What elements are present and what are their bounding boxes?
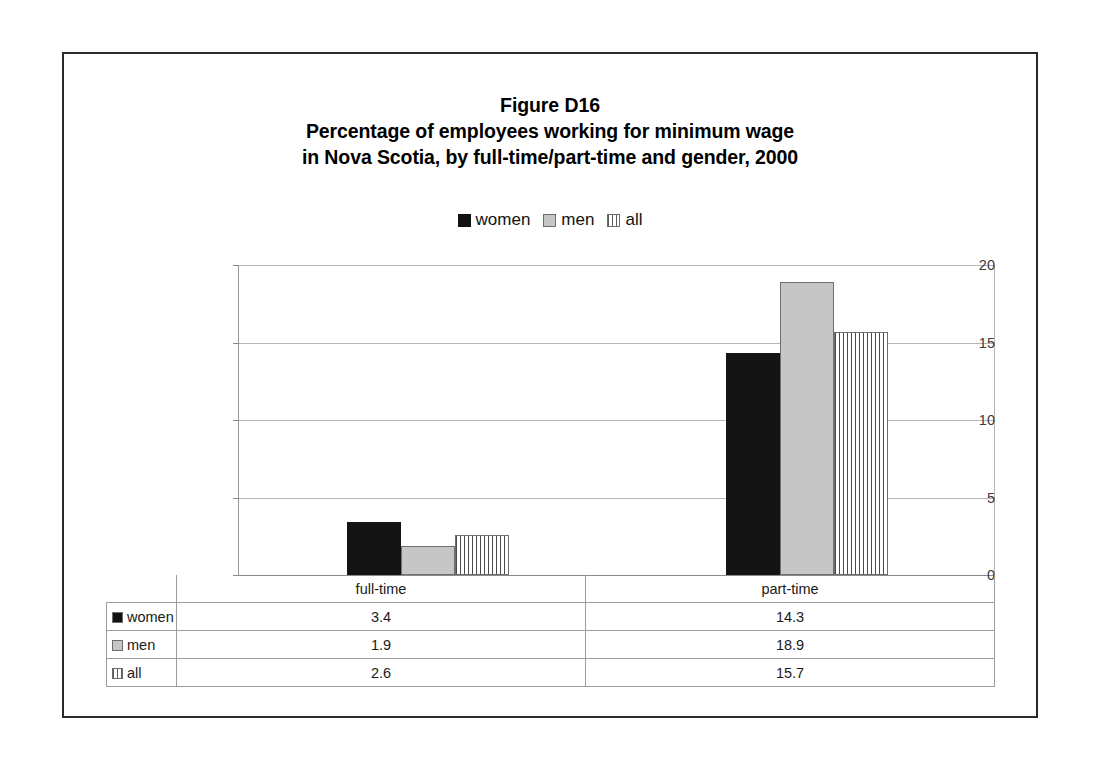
y-tick-5 <box>233 498 239 499</box>
chart-legend: women men all <box>64 211 1036 229</box>
category-label-full-time: full-time <box>177 575 586 603</box>
plot-area <box>238 265 995 575</box>
legend-label-women: women <box>476 211 531 229</box>
legend-item-women: women <box>458 211 531 229</box>
title-line-3: in Nova Scotia, by full-time/part-time a… <box>64 144 1036 170</box>
vertical-hatch-swatch-icon <box>607 214 620 227</box>
table-cell-all-part-time: 15.7 <box>586 659 995 687</box>
y-tick-label-20: 20 <box>947 257 995 273</box>
table-cell-women-full-time: 3.4 <box>177 603 586 631</box>
gridline-20 <box>239 265 995 266</box>
solid-gray-swatch-icon <box>543 214 556 227</box>
y-tick-15 <box>233 343 239 344</box>
series-label-text: all <box>127 665 142 681</box>
table-corner-cell <box>107 575 177 603</box>
table-cell-all-full-time: 2.6 <box>177 659 586 687</box>
bar-women-part-time <box>726 353 780 575</box>
bar-men-full-time <box>401 546 455 575</box>
bar-men-part-time <box>780 282 834 575</box>
figure-frame: Figure D16 Percentage of employees worki… <box>62 52 1038 718</box>
title-line-1: Figure D16 <box>64 92 1036 118</box>
series-label-text: women <box>127 609 174 625</box>
legend-label-all: all <box>625 211 642 229</box>
bar-all-full-time <box>455 535 509 575</box>
solid-black-swatch-icon <box>458 214 471 227</box>
y-tick-10 <box>233 420 239 421</box>
legend-label-men: men <box>561 211 594 229</box>
table-category-row: full-time part-time <box>107 575 995 603</box>
series-label-text: men <box>127 637 155 653</box>
plot-wrapper: 05101520 <box>176 265 995 575</box>
solid-black-swatch-icon <box>112 612 123 623</box>
table-row: men 1.9 18.9 <box>107 631 995 659</box>
vertical-hatch-swatch-icon <box>112 668 123 679</box>
y-tick-20 <box>233 265 239 266</box>
table-row: women 3.4 14.3 <box>107 603 995 631</box>
data-table: full-time part-time women 3.4 14.3 men 1… <box>106 575 995 687</box>
table-series-label-women: women <box>107 603 177 631</box>
table-cell-women-part-time: 14.3 <box>586 603 995 631</box>
figure-page: Figure D16 Percentage of employees worki… <box>0 0 1098 761</box>
solid-gray-swatch-icon <box>112 640 123 651</box>
bar-women-full-time <box>347 522 401 575</box>
table-series-label-all: all <box>107 659 177 687</box>
y-tick-label-15: 15 <box>947 335 995 351</box>
table-cell-men-part-time: 18.9 <box>586 631 995 659</box>
figure-title-block: Figure D16 Percentage of employees worki… <box>64 92 1036 170</box>
legend-item-men: men <box>543 211 594 229</box>
legend-item-all: all <box>607 211 642 229</box>
y-tick-label-10: 10 <box>947 412 995 428</box>
table-series-label-men: men <box>107 631 177 659</box>
table-cell-men-full-time: 1.9 <box>177 631 586 659</box>
title-line-2: Percentage of employees working for mini… <box>64 118 1036 144</box>
category-label-part-time: part-time <box>586 575 995 603</box>
bar-all-part-time <box>834 332 888 575</box>
table-row: all 2.6 15.7 <box>107 659 995 687</box>
y-tick-label-5: 5 <box>947 490 995 506</box>
